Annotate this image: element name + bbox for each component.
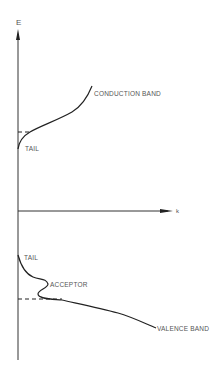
acceptor-label: ACCEPTOR — [50, 281, 88, 288]
conduction-tail-label: TAIL — [25, 145, 39, 152]
valence-band-curve — [18, 255, 156, 328]
energy-axis-arrow-icon — [16, 29, 20, 40]
k-axis-label: k — [176, 208, 180, 214]
band-diagram: E k TAIL CONDUCTION BAND TAIL ACCEPTOR V… — [0, 0, 222, 380]
conduction-band-label: CONDUCTION BAND — [94, 90, 161, 97]
k-axis-arrow-icon — [160, 209, 173, 213]
valence-tail-label: TAIL — [24, 254, 38, 261]
energy-axis-label: E — [16, 18, 21, 27]
conduction-band-curve — [18, 86, 92, 149]
valence-band-label: VALENCE BAND — [157, 325, 209, 332]
